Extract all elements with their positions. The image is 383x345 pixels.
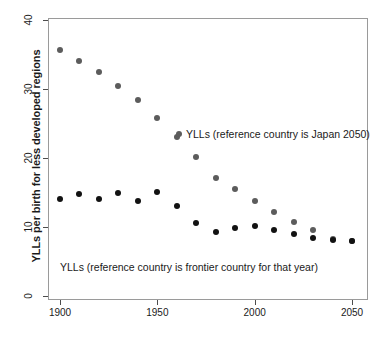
- data-point: [115, 190, 121, 196]
- data-point: [291, 231, 297, 237]
- y-tick-mark: [43, 20, 48, 21]
- x-tick-label: 2050: [341, 307, 363, 318]
- y-tick-label: 40: [18, 14, 40, 26]
- data-point: [271, 209, 277, 215]
- y-tick-label: 0: [18, 290, 40, 302]
- data-point: [310, 227, 316, 233]
- data-point: [232, 186, 238, 192]
- data-point: [115, 83, 121, 89]
- annotation-frontier-series: YLLs (reference country is frontier coun…: [60, 261, 318, 273]
- data-point: [232, 225, 238, 231]
- annotation-japan-series: YLLs (reference country is Japan 2050): [186, 128, 370, 140]
- data-point: [57, 196, 63, 202]
- x-tick-mark: [60, 300, 61, 305]
- data-point: [193, 220, 199, 226]
- data-point: [252, 198, 258, 204]
- data-point: [135, 198, 141, 204]
- y-tick-mark: [43, 227, 48, 228]
- y-tick-label: 10: [18, 221, 40, 233]
- data-point: [310, 235, 316, 241]
- x-tick-label: 2000: [244, 307, 266, 318]
- data-point: [213, 175, 219, 181]
- annotation-marker-dot: [176, 131, 182, 137]
- data-point: [96, 196, 102, 202]
- y-tick-label: 20: [18, 152, 40, 164]
- y-tick-mark: [43, 296, 48, 297]
- x-tick-mark: [352, 300, 353, 305]
- y-tick-mark: [43, 158, 48, 159]
- data-point: [96, 69, 102, 75]
- x-tick-mark: [157, 300, 158, 305]
- data-point: [330, 237, 336, 243]
- data-point: [349, 238, 355, 244]
- data-point: [154, 115, 160, 121]
- data-point: [174, 203, 180, 209]
- x-tick-label: 1950: [146, 307, 168, 318]
- data-point: [135, 97, 141, 103]
- data-point: [57, 47, 63, 53]
- y-tick-mark: [43, 89, 48, 90]
- data-point: [291, 219, 297, 225]
- data-point: [76, 191, 82, 197]
- x-tick-label: 1900: [49, 307, 71, 318]
- data-point: [193, 154, 199, 160]
- y-tick-label: 30: [18, 83, 40, 95]
- x-tick-mark: [255, 300, 256, 305]
- data-point: [271, 227, 277, 233]
- scatter-chart: YLLs per birth for less developed region…: [0, 0, 383, 345]
- plot-area: [48, 18, 368, 300]
- data-point: [252, 223, 258, 229]
- data-point: [76, 58, 82, 64]
- data-point: [213, 229, 219, 235]
- data-point: [154, 189, 160, 195]
